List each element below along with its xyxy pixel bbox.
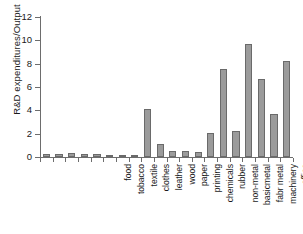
bar-paper [119,155,126,157]
x-axis-tick [167,158,168,162]
x-axis-label: tobacco [137,164,146,234]
x-axis-tick [268,158,269,162]
x-axis-label: basicmetal [263,164,272,234]
x-axis-label: machinery [289,164,298,234]
bar-leather [93,154,100,158]
x-axis-tick [230,158,231,162]
x-axis-label: office [301,164,303,234]
x-axis-tick [255,158,256,162]
x-axis-label: textile [150,164,159,234]
x-axis-label: non-metal [251,164,260,234]
y-axis-tick-label: 0 [8,152,32,161]
x-axis-label: rubber [238,164,247,234]
plot-area [40,17,293,157]
x-axis-tick [103,158,104,162]
y-axis-tick-label: 10 [8,35,32,44]
bar-basicmetal [182,151,189,157]
bar-radio-and-tv [245,44,252,157]
x-axis-label: food [124,164,133,234]
x-axis-tick [40,158,41,162]
bar-wood [106,155,113,157]
x-axis-tick [116,158,117,162]
x-axis-tick [91,158,92,162]
x-axis-label: wood [188,164,197,234]
bar-fabr-metal [195,152,202,157]
bar-clothes [81,154,88,158]
x-axis-label: clothes [162,164,171,234]
bar-other [283,61,290,157]
x-axis-tick [204,158,205,162]
x-axis-tick [78,158,79,162]
x-axis-tick [65,158,66,162]
x-axis-label: paper [200,164,209,234]
x-axis-label: chemicals [226,164,235,234]
bar-tobacco [55,154,62,157]
x-axis-tick [129,158,130,162]
bar-medical [258,79,265,157]
x-axis-tick [293,158,294,162]
x-axis-label: printing [213,164,222,234]
y-axis-tick-label: 8 [8,59,32,68]
x-axis-tick [53,158,54,162]
x-axis-tick [242,158,243,162]
bar-non-metal [169,151,176,157]
bar-printing [131,155,138,157]
bar-textile [68,153,75,157]
y-axis-tick-label: 12 [8,12,32,21]
x-axis-label: leather [175,164,184,234]
y-axis-tick-label: 2 [8,129,32,138]
x-axis-tick [280,158,281,162]
bar-rubber [157,144,164,157]
rd-expenditures-bar-chart: R&D expenditures/Output 024681012 foodto… [0,0,303,234]
x-axis-tick [179,158,180,162]
y-axis-tick-label: 4 [8,105,32,114]
bar-electrical [232,131,239,157]
bar-food [43,154,50,157]
bar-transport [270,114,277,157]
x-axis-tick [141,158,142,162]
x-axis-tick [217,158,218,162]
bar-office [220,69,227,157]
x-axis-tick [192,158,193,162]
x-axis-label: fabr metal [276,164,285,234]
x-axis-tick [154,158,155,162]
bar-machinery [207,133,214,157]
bar-chemicals [144,109,151,157]
y-axis-tick-label: 6 [8,82,32,91]
